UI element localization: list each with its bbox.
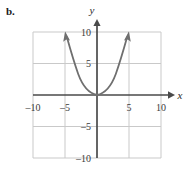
y-axis-arrowhead [93, 19, 100, 26]
parabola-right-arrowhead [124, 32, 131, 42]
y-tick-label--10: –10 [75, 153, 91, 164]
axes [33, 19, 175, 158]
y-tick-label--5: –5 [80, 121, 91, 132]
y-tick-label-10: 10 [81, 27, 91, 38]
x-tick-label--5: –5 [59, 102, 70, 113]
x-axis-arrowhead [168, 91, 175, 98]
x-tick-label-10: 10 [156, 102, 166, 113]
parabola-left-arrowhead [63, 32, 70, 42]
y-tick-label-5: 5 [86, 58, 91, 69]
x-tick-label--10: –10 [25, 102, 41, 113]
x-axis-label: x [177, 89, 183, 101]
parabola-graph: y x –10 –5 5 10 10 5 –5 –10 [0, 0, 194, 172]
x-tick-labels: –10 –5 5 10 [25, 102, 167, 113]
x-tick-label-5: 5 [127, 102, 132, 113]
y-axis-label: y [89, 4, 95, 16]
